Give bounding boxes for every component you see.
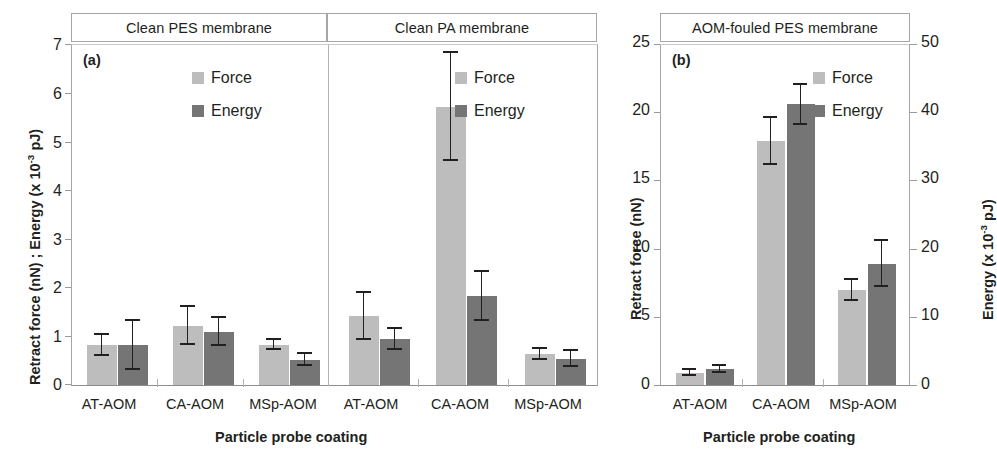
panel-a-legend-pa-energy[interactable]: Energy: [455, 102, 525, 120]
errorcap-force-b-1-bottom: [682, 374, 696, 376]
panel-a-plot-area: (a): [72, 45, 597, 385]
errorcap-force-b-2-bottom: [763, 163, 777, 165]
errorbar-energy-a-4: [394, 328, 395, 350]
errorcap-energy-b-2-bottom: [793, 123, 807, 125]
errorcap-force-a-3-top: [266, 338, 281, 340]
legend-swatch-force-icon: [455, 72, 467, 84]
legend-swatch-energy-icon: [813, 105, 825, 117]
errorcap-energy-a-1-top: [125, 319, 140, 321]
legend-swatch-energy-icon: [455, 105, 467, 117]
bar-energy-a-5: [467, 296, 497, 385]
panel-b-title-text: AOM-fouled PES membrane: [692, 20, 878, 36]
errorcap-energy-a-3-top: [297, 352, 312, 354]
panel-a-cat-label-4: AT-AOM: [321, 396, 421, 412]
errorbar-force-a-5: [450, 52, 451, 161]
panel-b-ytick-left-5: 5: [614, 307, 650, 323]
errorcap-energy-a-2-bottom: [211, 344, 226, 346]
panel-a-ytick-3: 3: [36, 232, 62, 248]
panel-a-group-divider: [328, 45, 329, 386]
errorcap-force-b-3-bottom: [844, 299, 858, 301]
panel-b-y-axis-title-right: Energy (x 10-3 pJ): [979, 199, 996, 320]
panel-b-y-axis-title-left: Retract force (nN): [629, 198, 644, 320]
errorbar-force-a-2: [187, 306, 188, 345]
panel-b-ytickmark-right-40: [909, 112, 917, 113]
errorcap-force-b-3-top: [844, 278, 858, 280]
panel-b-plot-frame: (b): [660, 44, 910, 386]
bar-force-a-3: [259, 345, 289, 385]
errorcap-force-a-6-bottom: [532, 358, 547, 360]
panel-a-y-axis-title-exponent: -3: [25, 155, 36, 164]
errorcap-force-a-2-top: [180, 305, 195, 307]
bar-energy-a-2: [204, 332, 234, 385]
errorcap-energy-b-1-bottom: [712, 371, 726, 373]
panel-a-ytick-0: 0: [36, 377, 62, 393]
errorcap-energy-a-4-bottom: [387, 348, 402, 350]
panel-b-ytick-right-10: 10: [921, 307, 961, 323]
errorcap-force-a-5-top: [443, 51, 458, 53]
errorbar-energy-b-2: [800, 84, 801, 125]
panel-a-title-pes: Clean PES membrane: [71, 13, 327, 42]
errorcap-force-a-1-top: [94, 333, 109, 335]
errorbar-force-b-3: [851, 279, 852, 301]
panel-a-legend-pes-energy[interactable]: Energy: [192, 102, 262, 120]
errorcap-force-a-3-bottom: [266, 348, 281, 350]
errorcap-force-a-5-bottom: [443, 159, 458, 161]
panel-a-x-axis-title: Particle probe coating: [215, 430, 367, 445]
errorbar-energy-b-3: [881, 240, 882, 287]
panel-b-ytickmark-right-50: [909, 44, 917, 45]
panel-a-legend-pes-force-label: Force: [211, 69, 252, 87]
panel-a-title-pa: Clean PA membrane: [327, 13, 597, 42]
panel-a-legend-pa-force[interactable]: Force: [455, 69, 515, 87]
panel-b-cat-separator-2: [823, 379, 824, 387]
errorcap-energy-b-1-top: [712, 364, 726, 366]
legend-swatch-force-icon: [813, 72, 825, 84]
errorcap-energy-a-6-top: [563, 349, 578, 351]
errorcap-energy-a-4-top: [387, 327, 402, 329]
errorbar-force-b-2: [770, 117, 771, 165]
panel-b-ytickmark-right-20: [909, 249, 917, 250]
bar-force-b-3: [838, 290, 866, 385]
panel-b-ytick-left-25: 25: [614, 34, 650, 50]
panel-b-ytick-left-0: 0: [614, 376, 650, 392]
figure-root: Clean PES membrane Clean PA membrane Ret…: [0, 0, 997, 469]
panel-a-y-axis-title: Retract force (nN) ; Energy (x 10-3 pJ): [26, 129, 43, 385]
panel-a-cat-separator-1: [157, 379, 158, 387]
panel-b-ytick-right-50: 50: [921, 34, 961, 50]
panel-a-ytick-7: 7: [36, 37, 62, 53]
panel-a-ytick-1: 1: [36, 329, 62, 345]
errorbar-energy-a-1: [132, 320, 133, 370]
bar-energy-a-6: [556, 359, 586, 385]
panel-a-ytick-5: 5: [36, 135, 62, 151]
errorcap-energy-a-2-top: [211, 316, 226, 318]
errorcap-energy-b-3-bottom: [874, 285, 888, 287]
panel-b-ytick-right-0: 0: [921, 376, 961, 392]
panel-a-cat-label-1: AT-AOM: [59, 396, 159, 412]
legend-swatch-force-icon: [192, 72, 204, 84]
chart-panel-b: AOM-fouled PES membrane Retract force (n…: [620, 0, 997, 469]
errorcap-force-a-6-top: [532, 347, 547, 349]
errorcap-energy-a-5-bottom: [474, 319, 489, 321]
panel-a-letter: (a): [83, 52, 101, 68]
errorcap-force-b-1-top: [682, 368, 696, 370]
panel-a-ytick-4: 4: [36, 183, 62, 199]
chart-panel-a: Clean PES membrane Clean PA membrane Ret…: [0, 0, 620, 469]
errorcap-force-a-1-bottom: [94, 354, 109, 356]
panel-b-ytick-left-20: 20: [614, 102, 650, 118]
errorbar-force-a-4: [363, 292, 364, 340]
panel-b-cat-label-3: MSp-AOM: [808, 396, 918, 412]
panel-b-ytickmark-right-0: [909, 385, 917, 386]
bar-energy-b-3: [868, 264, 896, 385]
errorbar-energy-a-5: [481, 271, 482, 321]
panel-a-cat-separator-2: [243, 379, 244, 387]
panel-b-legend-energy[interactable]: Energy: [813, 102, 883, 120]
panel-a-legend-pes-force[interactable]: Force: [192, 69, 252, 87]
bar-force-a-2: [173, 326, 203, 385]
panel-a-cat-separator-4: [418, 379, 419, 387]
panel-b-legend-force[interactable]: Force: [813, 69, 873, 87]
panel-b-plot-area: (b): [661, 45, 909, 385]
panel-a-title-pa-text: Clean PA membrane: [395, 20, 529, 36]
errorcap-energy-a-3-bottom: [297, 364, 312, 366]
panel-b-ytick-left-10: 10: [614, 239, 650, 255]
bar-force-b-2: [757, 141, 785, 385]
bar-energy-a-1: [118, 345, 148, 385]
